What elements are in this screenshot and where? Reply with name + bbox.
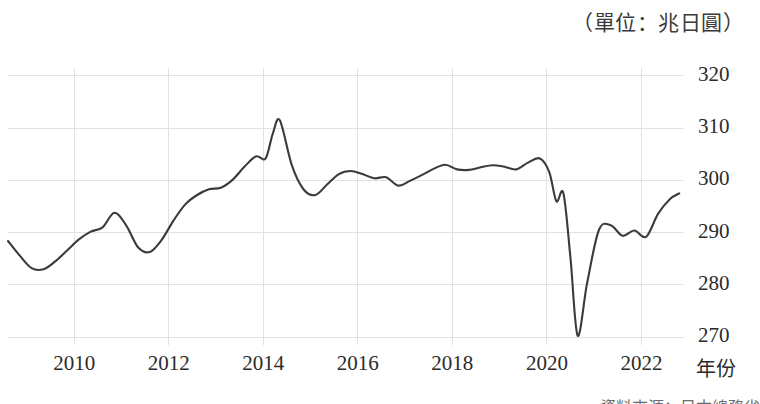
x-axis-tick-label: 2014 bbox=[233, 351, 293, 376]
data-line-japan-gdp bbox=[8, 119, 679, 336]
y-axis-tick-label: 270 bbox=[698, 323, 730, 348]
x-axis-tick-label: 2022 bbox=[611, 351, 671, 376]
y-axis-tick-label: 320 bbox=[698, 62, 730, 87]
x-axis-tick-label: 2012 bbox=[139, 351, 199, 376]
y-axis-tick-label: 290 bbox=[698, 219, 730, 244]
y-axis-tick-label: 300 bbox=[698, 166, 730, 191]
x-axis-tick-label: 2010 bbox=[44, 351, 104, 376]
x-axis-tick-label: 2018 bbox=[422, 351, 482, 376]
y-axis-tick-label: 280 bbox=[698, 271, 730, 296]
gridlines-group bbox=[8, 68, 684, 345]
y-axis-tick-label: 310 bbox=[698, 114, 730, 139]
x-axis-tick-label: 2016 bbox=[328, 351, 388, 376]
x-axis-title: 年份 bbox=[696, 353, 736, 382]
source-note: 資料來源：日本總務省 bbox=[600, 394, 760, 404]
x-axis-tick-label: 2020 bbox=[517, 351, 577, 376]
